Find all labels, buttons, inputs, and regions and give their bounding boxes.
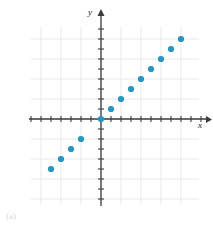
x-axis-label: x xyxy=(198,121,202,130)
grid-lines xyxy=(31,27,199,204)
scatter-plot xyxy=(0,0,213,226)
y-axis-label: y xyxy=(88,8,92,17)
figure-panel: y x (a) xyxy=(0,0,213,226)
axis-ticks xyxy=(31,29,201,199)
figure-caption: (a) xyxy=(6,212,16,221)
data-points xyxy=(48,36,184,172)
